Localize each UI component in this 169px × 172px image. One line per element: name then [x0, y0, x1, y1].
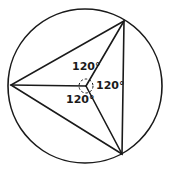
angle-label-bottom: 120° — [66, 93, 94, 106]
angle-label-top: 120° — [72, 60, 100, 73]
radius-to-top-right-vertex — [86, 21, 124, 86]
diagram-canvas: 120° 120° 120° — [0, 0, 169, 172]
radius-to-left-vertex — [11, 85, 86, 86]
angle-label-right: 120° — [96, 79, 124, 92]
